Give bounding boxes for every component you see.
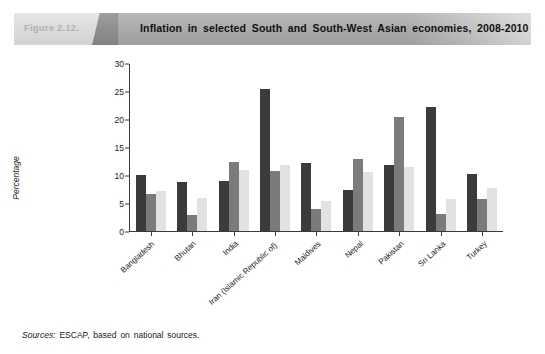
chart-region: Percentage 051015202530 BangladeshBhutan… [0,55,545,305]
bar [156,191,166,231]
bar [177,182,187,231]
figure-title: Inflation in selected South and South-We… [140,22,529,34]
y-tick-mark [125,148,129,149]
bar [477,199,487,231]
bar [270,171,280,231]
x-axis-label: Turkey [465,239,489,262]
x-tick-mark [441,231,442,236]
bar [467,174,477,231]
figure-header-banner: Figure 2.12. Inflation in selected South… [14,13,531,45]
x-tick-mark [482,231,483,236]
figure-number-label: Figure 2.12. [24,22,79,33]
bar [146,194,156,231]
x-tick-mark [275,231,276,236]
y-tick-label: 15 [115,143,124,153]
bar-group [379,64,420,231]
bar-group [462,64,503,231]
x-axis-label: Sri Lanka [416,239,447,268]
bar [229,162,239,231]
bar [321,201,331,231]
bar [187,215,197,231]
y-tick-mark [125,92,129,93]
x-axis-labels: BangladeshBhutanIndiaIran (Islamic Repub… [130,238,504,308]
y-tick-mark [125,64,129,65]
x-axis-label: India [221,239,240,257]
x-tick-mark [192,231,193,236]
bar-group [296,64,337,231]
bar [280,165,290,231]
x-axis-label: Bangladesh [119,240,156,275]
bar [487,188,497,231]
source-note-text: ESCAP, based on national sources. [59,330,199,340]
bar [363,172,373,231]
y-tick-mark [125,232,129,233]
bar-group [420,64,461,231]
bar-group [254,64,295,231]
bar [311,209,321,231]
x-tick-mark [399,231,400,236]
bar [404,167,414,231]
bar [219,181,229,231]
x-axis-label: Nepal [343,239,365,260]
bar [394,117,404,231]
bar [136,175,146,231]
source-note: Sources: ESCAP, based on national source… [22,330,199,340]
bar [446,199,456,231]
bar [426,107,436,231]
y-tick-label: 25 [115,87,124,97]
x-tick-mark [316,231,317,236]
bar [353,159,363,231]
y-tick-label: 0 [119,227,124,237]
bar [384,165,394,231]
plot-area: 051015202530 [129,64,503,232]
y-tick-label: 20 [115,115,124,125]
bar [197,198,207,231]
x-axis-label: Bhutan [173,239,198,263]
bar-group [171,64,212,231]
bar [260,89,270,231]
source-note-label: Sources: [22,330,56,340]
y-tick-mark [125,204,129,205]
bar-group [130,64,171,231]
y-tick-label: 30 [115,59,124,69]
bars-layer [130,64,503,231]
y-tick-mark [125,120,129,121]
bar [343,190,353,231]
bar [301,163,311,231]
x-axis-label: Pakistan [377,239,406,266]
bar [239,170,249,231]
bar-group [213,64,254,231]
x-tick-mark [151,231,152,236]
bar [436,214,446,231]
y-axis-title: Percentage [11,138,21,218]
x-axis-label: Iran (Islamic Republic of) [208,241,280,307]
x-axis-label: Maldives [293,239,322,267]
bar-group [337,64,378,231]
y-tick-label: 10 [115,171,124,181]
y-tick-label: 5 [119,199,124,209]
y-tick-mark [125,176,129,177]
x-tick-mark [234,231,235,236]
x-tick-mark [358,231,359,236]
